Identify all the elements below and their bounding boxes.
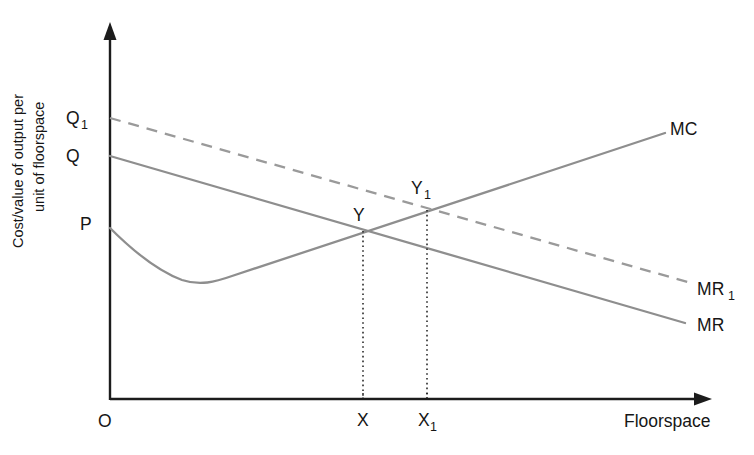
economics-chart-svg: Q 1 Q P O X X 1 Y Y 1 MC MR 1 MR Floorsp… <box>0 0 754 455</box>
y-tick-label-q1: Q <box>66 108 80 128</box>
chart-container: Q 1 Q P O X X 1 Y Y 1 MC MR 1 MR Floorsp… <box>0 0 754 455</box>
y-tick-label-p: P <box>80 214 92 234</box>
series-label-mr1-subscript: 1 <box>728 289 735 303</box>
intersection-label-y1-subscript: 1 <box>424 188 431 202</box>
series-label-mr: MR <box>697 315 724 335</box>
origin-label: O <box>98 411 112 431</box>
intersection-label-y: Y <box>353 205 365 225</box>
series-label-mc: MC <box>670 119 697 139</box>
y-tick-label-q: Q <box>66 146 80 166</box>
intersection-label-y1: Y <box>411 178 423 198</box>
x-tick-label-x1: X <box>418 410 430 430</box>
x-axis-arrow-icon <box>694 393 712 406</box>
x-tick-label-x: X <box>357 410 369 430</box>
y-axis-title-wrapper: Cost/value of output per unit of floorsp… <box>8 248 258 300</box>
y-tick-label-q1-subscript: 1 <box>81 118 88 132</box>
series-label-mr1: MR <box>697 279 724 299</box>
y-axis-arrow-icon <box>104 22 117 40</box>
x-axis-title: Floorspace <box>624 411 711 431</box>
x-tick-label-x1-subscript: 1 <box>430 420 437 434</box>
